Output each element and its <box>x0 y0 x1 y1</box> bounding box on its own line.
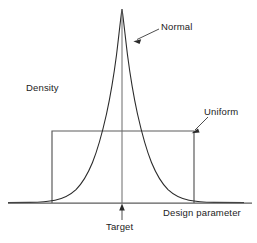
density-figure: Density Normal Uniform Target Design par… <box>0 0 257 243</box>
x-axis-label-design-parameter: Design parameter <box>163 207 241 218</box>
annotation-label-uniform: Uniform <box>204 106 238 117</box>
target-callout-arrow <box>119 204 125 220</box>
normal-callout-arrow <box>133 29 159 44</box>
y-axis-label-density: Density <box>26 82 59 93</box>
annotation-label-normal: Normal <box>161 21 193 32</box>
annotation-label-target: Target <box>106 221 133 232</box>
